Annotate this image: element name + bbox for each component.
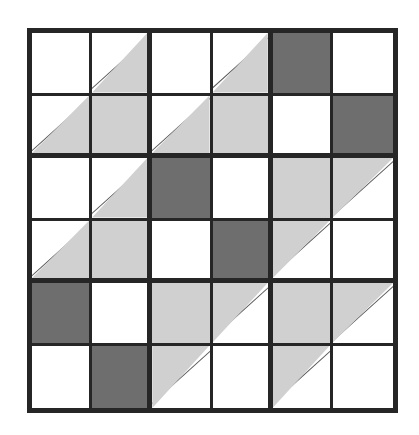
grid-cell-r6-c3 [152, 346, 212, 409]
cell-fill-tri-br-light [213, 33, 268, 93]
cell-fill-tri-br-light [92, 158, 147, 218]
cell-fill-blank [152, 221, 209, 279]
grid-cell-r2-c4 [213, 96, 273, 159]
grid-cell-r4-c4 [213, 221, 273, 284]
cell-fill-tri-br-light [92, 33, 147, 93]
cell-fill-blank [333, 346, 393, 409]
grid-cell-r4-c1 [32, 221, 92, 284]
cell-fill-solid-dark [152, 158, 209, 218]
grid-figure [27, 28, 398, 413]
grid-cell-r3-c3 [152, 158, 212, 221]
cell-fill-blank [213, 346, 268, 409]
cell-fill-blank [213, 158, 268, 218]
cell-fill-solid-dark [273, 33, 330, 93]
grid-cell-r6-c5 [273, 346, 333, 409]
grid-cell-r3-c6 [333, 158, 393, 221]
cell-fill-solid-light [273, 158, 330, 218]
cell-fill-tri-tl-light [333, 283, 393, 343]
grid-cell-r5-c1 [32, 283, 92, 346]
cell-fill-blank [32, 158, 89, 218]
grid-cell-r2-c5 [273, 96, 333, 159]
cell-fill-tri-tl-light [273, 346, 330, 409]
grid-cell-r5-c5 [273, 283, 333, 346]
cell-fill-solid-dark [213, 221, 268, 279]
grid-cell-r4-c2 [92, 221, 152, 284]
grid-cell-r2-c3 [152, 96, 212, 159]
cell-fill-blank [152, 33, 209, 93]
grid-cell-r1-c5 [273, 33, 333, 96]
grid-cell-r3-c2 [92, 158, 152, 221]
cell-fill-blank [333, 33, 393, 93]
cell-fill-blank [32, 33, 89, 93]
grid-cell-r4-c3 [152, 221, 212, 284]
cell-fill-solid-light [152, 283, 209, 343]
cell-fill-blank [333, 221, 393, 279]
grid-cell-r4-c6 [333, 221, 393, 284]
grid-cell-r3-c4 [213, 158, 273, 221]
cell-fill-solid-light [92, 96, 147, 154]
grid-cell-r3-c5 [273, 158, 333, 221]
cell-fill-tri-tl-light [273, 221, 330, 279]
grid-cell-r1-c3 [152, 33, 212, 96]
cell-fill-blank [273, 96, 330, 154]
cell-fill-tri-br-light [32, 221, 89, 279]
grid-table [27, 28, 398, 413]
cell-fill-solid-dark [92, 346, 147, 409]
grid-cell-r2-c2 [92, 96, 152, 159]
grid-cell-r1-c2 [92, 33, 152, 96]
cell-fill-tri-br-light [32, 96, 89, 154]
cell-fill-tri-tl-light [152, 346, 209, 409]
grid-cell-r6-c4 [213, 346, 273, 409]
cell-fill-tri-br-light [152, 96, 209, 154]
grid-cell-r6-c2 [92, 346, 152, 409]
cell-fill-solid-dark [32, 283, 89, 343]
grid-cell-r5-c2 [92, 283, 152, 346]
cell-fill-solid-dark [333, 96, 393, 154]
grid-cell-r2-c1 [32, 96, 92, 159]
cell-fill-tri-tl-light [333, 158, 393, 218]
grid-cell-r2-c6 [333, 96, 393, 159]
grid-cell-r5-c6 [333, 283, 393, 346]
grid-cell-r1-c1 [32, 33, 92, 96]
cell-fill-tri-tl-light [213, 283, 268, 343]
cell-fill-solid-light [213, 96, 268, 154]
cell-fill-solid-light [273, 283, 330, 343]
canvas [0, 0, 419, 435]
cell-fill-blank [32, 346, 89, 409]
grid-cell-r6-c6 [333, 346, 393, 409]
grid-cell-r3-c1 [32, 158, 92, 221]
grid-cell-r1-c4 [213, 33, 273, 96]
grid-cell-r5-c3 [152, 283, 212, 346]
grid-cell-r1-c6 [333, 33, 393, 96]
grid-cell-r5-c4 [213, 283, 273, 346]
grid-cell-r4-c5 [273, 221, 333, 284]
grid-cell-r6-c1 [32, 346, 92, 409]
cell-fill-solid-light [92, 221, 147, 279]
cell-fill-blank [92, 283, 147, 343]
